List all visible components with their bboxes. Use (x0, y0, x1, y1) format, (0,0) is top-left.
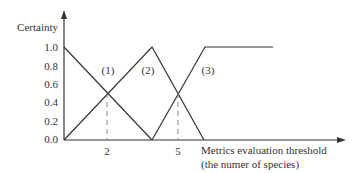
y-tick-0.0: 0.0 (44, 133, 58, 145)
curve-2 (64, 47, 204, 140)
curve-1-label: (1) (102, 64, 115, 77)
membership-chart: Certainty 1.0 0.8 0.6 0.4 0.2 0.0 (1) (2… (0, 0, 352, 173)
x-axis-title-line1: Metrics evaluation threshold (201, 144, 327, 156)
y-tick-0.2: 0.2 (44, 115, 58, 127)
curve-3 (152, 47, 273, 140)
curve-2-label: (2) (142, 64, 155, 77)
y-axis-title: Certainty (17, 21, 58, 33)
y-axis-arrow-icon (61, 10, 67, 19)
y-tick-1.0: 1.0 (44, 41, 58, 53)
x-axis-title-line2: (the numer of species) (201, 158, 299, 171)
x-tick-2: 2 (104, 145, 110, 157)
y-tick-0.4: 0.4 (44, 96, 58, 108)
x-axis-arrow-icon (337, 137, 346, 143)
x-tick-5: 5 (175, 145, 181, 157)
curve-3-label: (3) (202, 64, 215, 77)
y-tick-0.6: 0.6 (44, 78, 58, 90)
y-tick-0.8: 0.8 (44, 60, 58, 72)
